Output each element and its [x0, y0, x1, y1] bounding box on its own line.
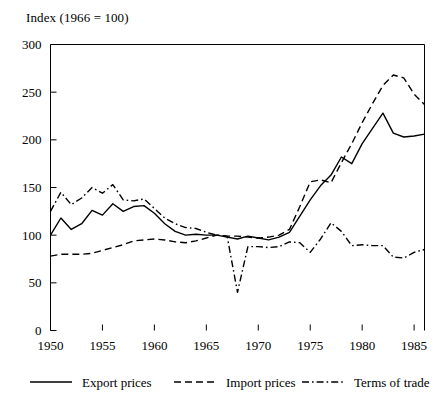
x-tick-label: 1950 [38, 338, 64, 353]
chart-legend: Export pricesImport pricesTerms of trade [30, 375, 430, 390]
x-tick-label: 1985 [401, 338, 427, 353]
y-tick-label: 250 [22, 85, 42, 100]
x-axis-tick-labels: 19501955196019651970197519801985 [38, 338, 428, 353]
chart-series-group [51, 75, 425, 292]
x-tick-label: 1955 [89, 338, 115, 353]
y-tick-label: 200 [22, 132, 42, 147]
series-line-import-prices [51, 75, 425, 256]
x-tick-label: 1970 [245, 338, 271, 353]
y-tick-label: 300 [22, 37, 42, 52]
chart-container: Index (1966 = 100) 050100150200250300 19… [0, 0, 444, 410]
y-tick-label: 0 [35, 323, 42, 338]
legend-label-terms-of-trade: Terms of trade [354, 375, 430, 390]
y-tick-label: 150 [22, 180, 42, 195]
y-axis-tick-marks [51, 45, 57, 331]
x-tick-label: 1975 [297, 338, 323, 353]
y-tick-label: 100 [22, 228, 42, 243]
plot-frame [51, 45, 425, 331]
x-axis-tick-marks [51, 325, 415, 331]
chart-plot-svg: 050100150200250300 195019551960196519701… [0, 0, 444, 410]
x-tick-label: 1960 [141, 338, 167, 353]
legend-label-export-prices: Export prices [82, 375, 152, 390]
y-tick-label: 50 [29, 275, 42, 290]
series-line-export-prices [51, 113, 425, 240]
x-tick-label: 1980 [349, 338, 375, 353]
x-tick-label: 1965 [193, 338, 219, 353]
y-axis-tick-labels: 050100150200250300 [22, 37, 42, 338]
legend-label-import-prices: Import prices [226, 375, 296, 390]
